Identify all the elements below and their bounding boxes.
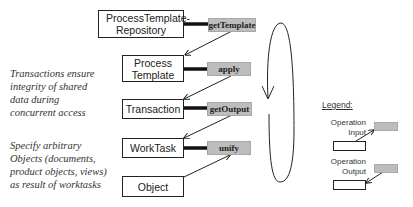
legend-input-label: Operation Input bbox=[320, 118, 366, 138]
class-label: Transaction bbox=[126, 103, 180, 115]
note-line: concurrent access bbox=[10, 106, 95, 119]
class-label: Process Template bbox=[128, 57, 178, 81]
class-label: WorkTask bbox=[130, 142, 176, 154]
class-box-repository: ProcessTemplate-Repository bbox=[98, 10, 184, 38]
operation-unify: unify bbox=[207, 141, 251, 155]
legend-title: Legend: bbox=[322, 100, 353, 110]
legend-text: Output bbox=[320, 167, 366, 177]
class-box-transaction: Transaction bbox=[122, 99, 184, 119]
note-line: Specify arbitrary bbox=[10, 139, 107, 152]
output-arrow-getTemplate bbox=[185, 31, 232, 55]
legend-output-operation-swatch bbox=[374, 164, 398, 173]
legend-output-class-swatch bbox=[333, 180, 366, 190]
input-arrow-unify bbox=[184, 155, 230, 177]
note-line: as result of worktasks bbox=[10, 178, 107, 191]
class-box-object: Object bbox=[122, 176, 184, 197]
legend-text: Operation bbox=[320, 118, 366, 128]
note-line: data during bbox=[10, 93, 95, 106]
note-line: Objects (documents, bbox=[10, 152, 107, 165]
legend-output-label: Operation Output bbox=[320, 157, 366, 177]
class-label: Object bbox=[138, 181, 168, 193]
note-line: product objects, views) bbox=[10, 165, 107, 178]
output-arrow-apply bbox=[184, 76, 231, 99]
note-line: Transactions ensure bbox=[10, 67, 95, 80]
legend-text: Operation bbox=[320, 157, 366, 167]
class-box-worktask: WorkTask bbox=[122, 138, 184, 158]
note-transactions: Transactions ensure integrity of shared … bbox=[10, 67, 95, 119]
legend-input-operation-swatch bbox=[374, 122, 398, 131]
operation-getTemplate: getTemplate bbox=[208, 18, 256, 32]
note-line: integrity of shared bbox=[10, 80, 95, 93]
diagram-canvas: ProcessTemplate-Repository Process Templ… bbox=[0, 0, 413, 207]
legend-input-class-swatch bbox=[333, 141, 366, 151]
class-label: ProcessTemplate-Repository bbox=[106, 12, 176, 36]
legend-text: Input bbox=[320, 128, 366, 138]
loop-arrow bbox=[268, 23, 294, 182]
output-arrow-getOutput bbox=[184, 115, 232, 138]
operation-apply: apply bbox=[207, 62, 251, 76]
note-objects: Specify arbitrary Objects (documents, pr… bbox=[10, 139, 107, 191]
class-box-process-template: Process Template bbox=[122, 55, 184, 82]
legend-output-arrow bbox=[366, 172, 383, 183]
operation-getOutput: getOutput bbox=[207, 102, 252, 116]
